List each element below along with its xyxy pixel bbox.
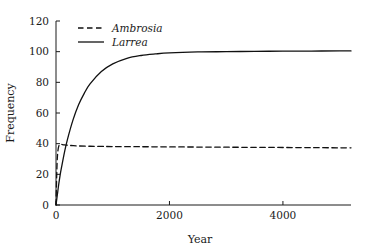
chart-legend: AmbrosiaLarrea — [78, 22, 163, 48]
chart-figure: 020406080100120 020004000 Frequency Year… — [0, 0, 368, 251]
legend-label-ambrosia: Ambrosia — [111, 22, 163, 34]
y-tick-label: 0 — [42, 199, 49, 211]
y-axis-tick-labels: 020406080100120 — [29, 15, 49, 211]
y-tick-label: 40 — [36, 137, 49, 149]
x-axis-tick-labels: 020004000 — [53, 209, 297, 221]
x-tick-label: 2000 — [156, 209, 183, 221]
y-tick-label: 120 — [29, 15, 49, 27]
x-tick-label: 0 — [53, 209, 60, 221]
frequency-vs-year-line-chart: 020406080100120 020004000 Frequency Year… — [0, 0, 368, 251]
series-line-ambrosia — [56, 144, 351, 205]
y-tick-label: 60 — [36, 107, 49, 119]
y-tick-label: 80 — [36, 76, 49, 88]
x-tick-label: 4000 — [270, 209, 297, 221]
y-tick-label: 20 — [36, 168, 49, 180]
x-axis-tick-marks — [56, 201, 283, 205]
x-axis-title: Year — [187, 233, 213, 246]
series-line-larrea — [56, 51, 351, 205]
legend-label-larrea: Larrea — [111, 36, 148, 48]
y-tick-label: 100 — [29, 45, 49, 57]
y-axis-title: Frequency — [4, 82, 17, 142]
data-series-group — [56, 51, 351, 205]
